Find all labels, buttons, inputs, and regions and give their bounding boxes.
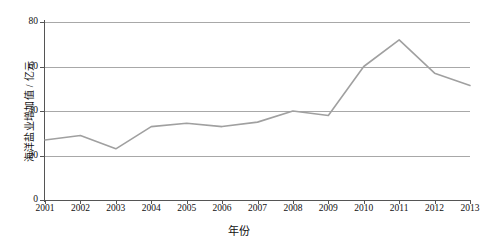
series-line-marine-salt-value <box>45 40 470 149</box>
x-axis-title: 年份 <box>0 222 478 238</box>
